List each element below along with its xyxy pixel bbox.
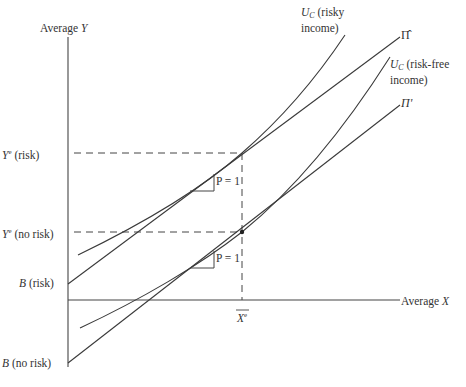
- intercept-b-risk: B (risk): [19, 277, 54, 290]
- y-tick-no-risk: Ye (no risk): [2, 225, 54, 241]
- slope-label-no-risk: P = 1: [216, 252, 240, 265]
- tangency-point: [240, 230, 244, 234]
- slope-triangle-risk: [190, 174, 214, 191]
- curve-label-risky: UC (risky income): [301, 6, 344, 35]
- x-axis-label: Average X: [401, 295, 449, 308]
- line-label-pi-prime: Π': [401, 97, 412, 110]
- indifference-curve-risk-free: [80, 57, 390, 328]
- x-tick-xe: Xe: [237, 309, 247, 325]
- line-label-pi-hat: Π̂: [401, 29, 410, 42]
- curve-label-risk-free: UC (risk-free income): [390, 58, 449, 87]
- slope-label-risk: P = 1: [216, 175, 240, 188]
- intercept-b-no-risk: B (no risk): [2, 357, 51, 370]
- y-axis-label: Average Y: [40, 22, 87, 35]
- indifference-curve-risky: [78, 35, 345, 255]
- y-tick-risk: Ye (risk): [2, 146, 39, 162]
- isoprofit-line-pi-prime: [68, 105, 400, 363]
